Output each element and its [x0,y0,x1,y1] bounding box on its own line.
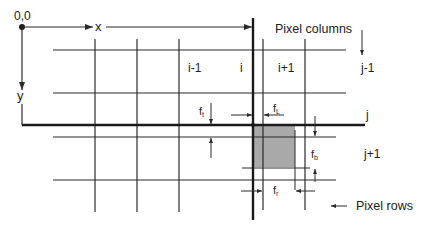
row-label-j: j [366,109,369,121]
fraction-label-left: fL [273,103,280,115]
column-label-i-plus-1: i+1 [278,62,294,74]
intersection-dot [251,123,255,127]
fraction-label-right: fr [273,185,278,197]
origin-label: 0,0 [14,10,31,22]
column-label-i-minus-1: i-1 [188,62,201,74]
pixel-columns-label: Pixel columns [275,23,352,36]
pixel-rows-label: Pixel rows [356,200,413,213]
fraction-label-top: ft [199,106,204,118]
y-axis-label: y [17,89,24,102]
column-label-i: i [240,62,243,74]
fraction-label-bottom: fb [311,149,318,161]
row-label-j-minus-1: j-1 [361,62,374,74]
x-axis-label: x [95,20,102,33]
row-label-j-plus-1: j+1 [364,148,380,160]
shaded-pixel [254,126,295,167]
